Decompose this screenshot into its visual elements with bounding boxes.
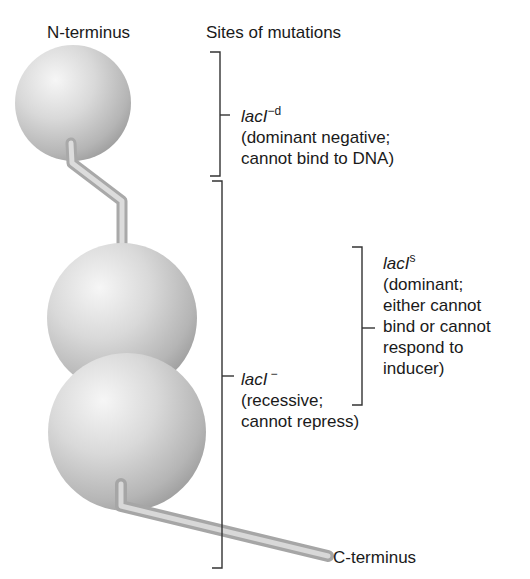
c-terminus-label: C-terminus xyxy=(333,547,416,568)
allele-superscript: − xyxy=(270,367,277,381)
laci-mutation-diagram: N-terminus Sites of mutations C-terminus… xyxy=(0,0,530,579)
gene-name: lacI xyxy=(241,107,267,126)
description-line: cannot repress) xyxy=(241,411,359,432)
bracket-laci-d xyxy=(210,52,230,176)
description-line: (dominant negative; xyxy=(241,127,394,148)
sites-of-mutations-heading: Sites of mutations xyxy=(206,22,341,43)
description-line: inducer) xyxy=(383,358,491,379)
n-terminus-label: N-terminus xyxy=(47,22,130,43)
mutation-laci-s: lacIs (dominant; either cannot bind or c… xyxy=(383,248,491,379)
bracket-laci-minus xyxy=(212,181,234,568)
description-line: (dominant; xyxy=(383,274,491,295)
description-line: cannot bind to DNA) xyxy=(241,148,394,169)
allele-superscript: −d xyxy=(267,104,281,118)
mutation-laci-minus: lacI− (recessive; cannot repress) xyxy=(241,364,359,432)
gene-name: lacI xyxy=(383,254,409,273)
description-line: (recessive; xyxy=(241,390,359,411)
allele-superscript: s xyxy=(409,251,415,265)
mutation-laci-d: lacI−d (dominant negative; cannot bind t… xyxy=(241,101,394,169)
description-line: respond to xyxy=(383,337,491,358)
description-line: bind or cannot xyxy=(383,316,491,337)
description-line: either cannot xyxy=(383,295,491,316)
gene-name: lacI xyxy=(241,370,267,389)
